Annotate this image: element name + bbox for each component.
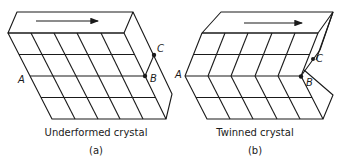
top-face	[8, 12, 133, 33]
panel-a-undeformed-crystal: A B C Underformed crystal (a)	[8, 12, 172, 156]
label-b: B	[306, 77, 313, 88]
point-b-marker	[299, 74, 303, 78]
label-c: C	[157, 43, 164, 54]
crystal-twinning-diagram: A B C Underformed crystal (a) A B	[0, 0, 342, 167]
sublabel-a: (a)	[89, 145, 103, 156]
caption-a: Underformed crystal	[45, 127, 148, 138]
side-face-upper	[301, 12, 333, 76]
label-c: C	[316, 53, 323, 64]
caption-b: Twinned crystal	[215, 127, 293, 138]
point-c-marker	[311, 57, 315, 61]
point-c-marker	[152, 53, 156, 57]
sublabel-b: (b)	[248, 145, 262, 156]
side-face	[133, 12, 172, 119]
label-a: A	[174, 69, 182, 80]
point-b-marker	[143, 74, 147, 78]
label-b: B	[150, 73, 157, 84]
label-a: A	[17, 74, 25, 85]
panel-b-twinned-crystal: A B C Twinned crystal (b)	[174, 12, 333, 156]
